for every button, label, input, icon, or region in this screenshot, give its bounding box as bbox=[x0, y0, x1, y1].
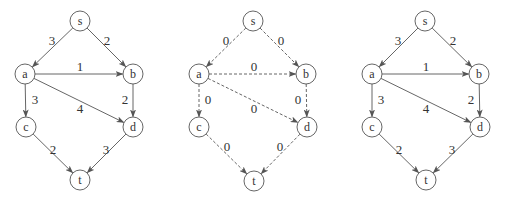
edge-label-c-t: 0 bbox=[224, 139, 231, 154]
node-label-s: s bbox=[78, 14, 83, 28]
edge-label-a-b: 1 bbox=[77, 59, 84, 74]
node-label-d: d bbox=[477, 120, 483, 134]
node-label-b: b bbox=[476, 67, 482, 81]
edge-label-b-d: 2 bbox=[468, 92, 475, 107]
node-label-a: a bbox=[196, 67, 202, 81]
edge-label-a-d: 4 bbox=[77, 101, 84, 116]
edge-label-s-b: 2 bbox=[104, 33, 111, 48]
edge-label-a-d: 4 bbox=[423, 101, 430, 116]
edge-b-d bbox=[306, 84, 307, 117]
node-label-a: a bbox=[369, 67, 375, 81]
node-label-a: a bbox=[22, 67, 28, 81]
edge-label-c-t: 2 bbox=[50, 142, 57, 157]
edge-label-s-a: 3 bbox=[49, 33, 56, 48]
graph-middle: 00000000sabcdt bbox=[189, 11, 317, 191]
edge-label-d-t: 0 bbox=[277, 139, 284, 154]
graph-left: 32134223sabcdt bbox=[15, 11, 143, 190]
edge-label-a-b: 0 bbox=[251, 59, 258, 74]
edge-label-a-c: 3 bbox=[32, 92, 39, 107]
node-label-b: b bbox=[303, 67, 309, 81]
edge-b-d bbox=[479, 84, 480, 117]
edge-label-s-b: 0 bbox=[278, 33, 285, 48]
edge-label-s-b: 2 bbox=[450, 33, 457, 48]
edge-label-a-c: 3 bbox=[378, 92, 385, 107]
node-label-c: c bbox=[23, 120, 28, 134]
node-label-d: d bbox=[130, 120, 136, 134]
edge-label-d-t: 3 bbox=[103, 142, 110, 157]
graph-right: 32134223sabcdt bbox=[362, 11, 490, 190]
edge-label-b-d: 0 bbox=[295, 92, 302, 107]
edge-a-c bbox=[25, 84, 26, 117]
graph-canvas: 32134223sabcdt 00000000sabcdt 32134223sa… bbox=[0, 0, 506, 199]
edge-label-d-t: 3 bbox=[449, 142, 456, 157]
edge-label-a-b: 1 bbox=[423, 59, 430, 74]
edge-label-b-d: 2 bbox=[122, 92, 129, 107]
node-label-s: s bbox=[423, 14, 428, 28]
node-label-s: s bbox=[251, 14, 256, 28]
edge-label-s-a: 3 bbox=[395, 33, 402, 48]
edge-label-a-d: 0 bbox=[251, 101, 258, 116]
node-label-b: b bbox=[130, 67, 136, 81]
node-label-c: c bbox=[369, 120, 374, 134]
edge-label-a-c: 0 bbox=[205, 92, 212, 107]
edge-label-s-a: 0 bbox=[223, 33, 230, 48]
node-label-d: d bbox=[304, 120, 310, 134]
node-label-c: c bbox=[196, 120, 201, 134]
edge-label-c-t: 2 bbox=[396, 142, 403, 157]
